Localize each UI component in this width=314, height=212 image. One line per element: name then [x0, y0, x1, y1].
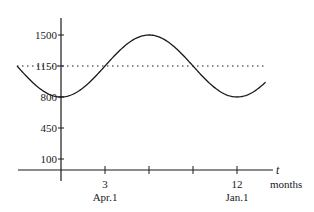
y-tick-label-1150: 1150 [35, 60, 57, 72]
x-tick-labels: 3 Apr.1 12 Jan.1 [93, 178, 249, 203]
x-tick-sublabel-apr1: Apr.1 [93, 191, 118, 203]
x-tick-sublabel-jan1: Jan.1 [226, 191, 249, 203]
y-tick-label-800: 800 [41, 91, 58, 103]
chart: 1500 1150 800 450 100 3 Apr.1 12 Jan.1 t… [0, 0, 314, 212]
y-tick-label-1500: 1500 [35, 29, 58, 41]
x-tick-label-12: 12 [232, 178, 243, 190]
y-tick-label-100: 100 [41, 153, 58, 165]
y-tick-label-450: 450 [41, 122, 58, 134]
x-axis-unit: months [270, 178, 302, 190]
x-axis-variable: t [276, 163, 280, 177]
x-tick-label-3: 3 [102, 178, 108, 190]
y-tick-labels: 1500 1150 800 450 100 [35, 29, 58, 165]
